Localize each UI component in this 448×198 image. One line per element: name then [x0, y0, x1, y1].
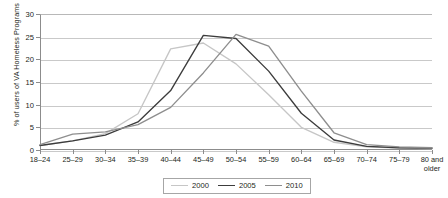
- legend-swatch-icon: [171, 185, 188, 186]
- legend-label: 2000: [192, 181, 209, 190]
- legend-entry-2005[interactable]: 2005: [218, 181, 256, 190]
- legend-label: 2005: [239, 181, 256, 190]
- series-line-2005: [40, 35, 432, 148]
- series-line-2010: [40, 34, 432, 147]
- legend-label: 2010: [286, 181, 303, 190]
- chart-legend: 200020052010: [163, 178, 311, 194]
- legend-swatch-icon: [265, 185, 282, 186]
- legend-swatch-icon: [218, 185, 235, 186]
- legend-entry-2010[interactable]: 2010: [265, 181, 303, 190]
- legend-entry-2000[interactable]: 2000: [171, 181, 209, 190]
